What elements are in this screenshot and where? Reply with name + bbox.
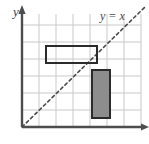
geometry-figure: y y = x (0, 0, 149, 144)
y-axis-label: y (11, 4, 19, 19)
image-rectangle (92, 70, 110, 118)
line-equation-label: y = x (99, 9, 125, 23)
coordinate-plane-svg: y y = x (0, 0, 149, 144)
